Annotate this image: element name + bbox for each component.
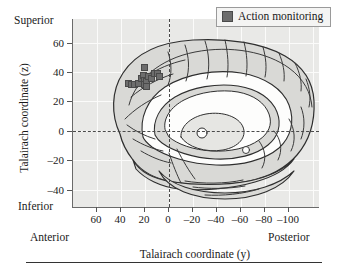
data-point [156,73,163,80]
x-tick [264,207,265,212]
y-tick [67,72,72,73]
data-point [143,83,150,90]
x-tick [216,207,217,212]
x-tick-label: –20 [184,214,201,225]
plot-area [72,19,319,208]
x-tick [120,207,121,212]
figure-bottom-rule [26,262,322,263]
x-tick [288,207,289,212]
legend-label-action-monitoring: Action monitoring [238,11,323,23]
y-tick-label: 20 [53,96,64,107]
x-tick [192,207,193,212]
x-tick-label: –60 [232,214,249,225]
x-tick [240,207,241,212]
y-tick [67,160,72,161]
figure-container: 60 40 20 0 –20 –40 60 40 [0,0,347,267]
x-tick-label: 20 [139,214,150,225]
y-tick-label: 40 [53,67,64,78]
axis-caption-inferior: Inferior [18,201,53,213]
y-axis-title: Talairach coordinate (z) [18,38,30,198]
axis-caption-posterior: Posterior [268,232,310,244]
x-tick-label: –100 [277,214,299,225]
y-tick [67,101,72,102]
x-tick [144,207,145,212]
data-point [141,64,148,71]
legend-swatch-action-monitoring [222,11,233,22]
x-tick-label: –40 [208,214,225,225]
x-axis-title: Talairach coordinate (y) [72,248,318,260]
y-tick-label: –40 [48,185,65,196]
y-tick [67,131,72,132]
reference-line-z0 [73,131,319,132]
reference-line-y0 [169,19,170,207]
x-tick [168,207,169,212]
y-tick [67,43,72,44]
chart-legend[interactable]: Action monitoring [216,7,331,27]
y-tick-label: 0 [59,126,65,137]
x-tick-label: 40 [115,214,126,225]
axis-caption-anterior: Anterior [30,232,69,244]
x-tick [96,207,97,212]
x-tick-label: –80 [256,214,273,225]
y-tick-label: –20 [48,155,65,166]
y-tick [67,190,72,191]
y-tick-label: 60 [53,38,64,49]
x-tick-label: 60 [91,214,102,225]
axis-caption-superior: Superior [14,15,54,27]
sagittal-brain-diagram [73,19,319,207]
x-tick-label: 0 [165,214,171,225]
